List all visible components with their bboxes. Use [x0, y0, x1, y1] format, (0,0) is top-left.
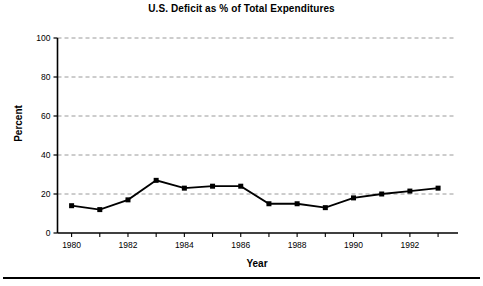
x-axis-tick-label: 1986	[231, 240, 250, 250]
x-axis-tick-label: 1980	[62, 240, 81, 250]
chart-figure: U.S. Deficit as % of Total Expenditures …	[0, 0, 483, 286]
data-point-marker	[125, 197, 130, 202]
data-point-marker	[69, 203, 74, 208]
data-series	[69, 178, 440, 212]
y-axis-tick-label: 80	[41, 72, 51, 82]
data-point-marker	[266, 201, 271, 206]
y-axis: 020406080100	[36, 33, 57, 238]
data-point-marker	[323, 205, 328, 210]
data-point-marker	[182, 186, 187, 191]
x-axis: 1980198219841986198819901992	[58, 233, 459, 250]
data-point-marker	[210, 184, 215, 189]
data-point-marker	[379, 192, 384, 197]
data-point-marker	[351, 195, 356, 200]
gridlines	[58, 38, 456, 194]
y-axis-tick-label: 0	[46, 228, 51, 238]
x-axis-tick-label: 1988	[288, 240, 307, 250]
x-axis-tick-label: 1982	[119, 240, 138, 250]
data-point-marker	[238, 184, 243, 189]
x-axis-tick-label: 1984	[175, 240, 194, 250]
data-point-marker	[295, 201, 300, 206]
y-axis-tick-label: 100	[36, 33, 50, 43]
footer-divider	[3, 277, 480, 279]
y-axis-tick-label: 20	[41, 189, 51, 199]
data-point-marker	[436, 186, 441, 191]
x-axis-tick-label: 1990	[344, 240, 363, 250]
y-axis-tick-label: 40	[41, 150, 51, 160]
x-axis-tick-label: 1992	[400, 240, 419, 250]
plot-area: 020406080100 198019821984198619881990199…	[0, 0, 483, 286]
data-point-marker	[407, 189, 412, 194]
data-point-marker	[97, 207, 102, 212]
data-point-marker	[154, 178, 159, 183]
y-axis-tick-label: 60	[41, 111, 51, 121]
